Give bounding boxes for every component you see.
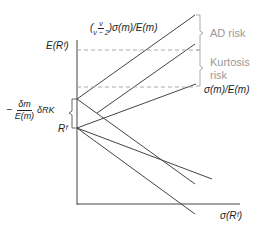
rf-down-line-a	[77, 128, 212, 179]
x-axis-label: σ(Rᶠ)	[220, 210, 242, 221]
market-line-label: σ(m)/E(m)	[204, 84, 249, 95]
ad-risk-brace	[196, 15, 203, 50]
kurtosis-label-1: Kurtosis	[210, 56, 250, 68]
ad-risk-label: AD risk	[210, 27, 245, 39]
intercept-label: − δmE(m) δRK	[6, 99, 54, 122]
top-line-label: (νν − 2)σ(m)/E(m)	[90, 20, 158, 37]
y-axis-label: E(Rᶠ)	[46, 40, 69, 51]
intercept-brace	[69, 99, 77, 128]
kurtosis-label-2: risk	[210, 69, 227, 81]
market-line	[77, 84, 196, 128]
kurtosis-brace	[196, 50, 203, 86]
rf-label: Rᶠ	[58, 123, 67, 134]
